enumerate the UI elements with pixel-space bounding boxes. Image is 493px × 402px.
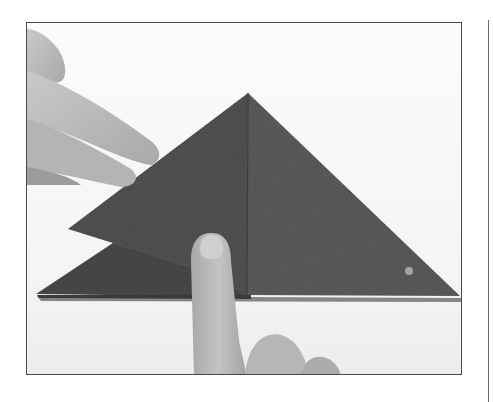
right-face	[247, 93, 460, 296]
vertical-rule	[488, 20, 489, 402]
photo-frame: Grayscale instructional photograph of ha…	[26, 22, 462, 375]
knuckle-second	[245, 334, 309, 375]
left-hand	[27, 29, 159, 187]
paper-spot	[405, 267, 413, 275]
knuckle-third	[301, 357, 341, 375]
origami-photo	[27, 23, 462, 375]
